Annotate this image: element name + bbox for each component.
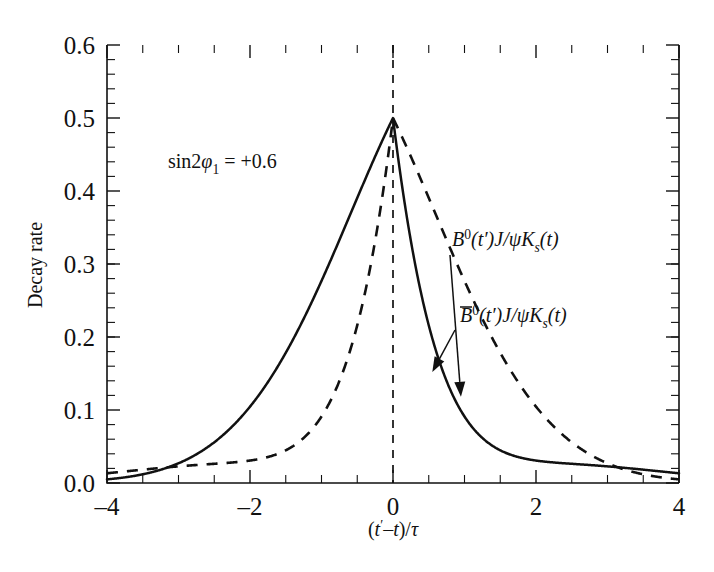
x-axis-title: (t′–t)/τ [368,518,419,541]
label2-arg: (t′) [479,304,503,327]
x-tick-label: 2 [530,493,543,520]
x-tick-label: 0 [387,493,400,520]
x-tick-label: 4 [673,493,686,520]
annot-phi-symbol: φ [201,150,212,173]
y-tick-label: 0.3 [64,251,95,278]
chart-svg: Decay rate 0.00.10.20.30.40.50.6 –4–2024… [0,0,714,572]
label2-tail: (t) [548,304,567,327]
y-tick-label: 0.6 [64,32,95,59]
decay-rate-chart: Decay rate 0.00.10.20.30.40.50.6 –4–2024… [0,0,714,572]
label1-b: B [452,228,464,250]
y-axis-title: Decay rate [24,222,47,308]
y-tick-label: 0.1 [64,397,95,424]
y-tick-label: 0.4 [64,178,96,205]
y-tick-label: 0.5 [64,105,95,132]
label1-rest: J/ψK [494,228,536,251]
label2-rest: J/ψK [502,304,544,327]
annot-prefix: sin2 [168,150,201,172]
x-tick-label: –2 [237,493,263,520]
annot-subscript: 1 [212,162,219,177]
y-tick-label: 0.2 [64,324,95,351]
xtitle-tau: τ [411,518,419,540]
x-tick-label: –4 [94,493,121,520]
annot-equals: = +0.6 [219,150,277,172]
xtitle-close: )/ [399,518,412,541]
label1-arg: (t′) [471,228,495,251]
y-tick-label: 0.0 [64,470,95,497]
label1-tail: (t) [540,228,559,251]
